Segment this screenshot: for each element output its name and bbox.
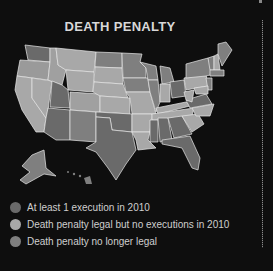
state-kansas	[100, 96, 130, 114]
state-arkansas	[132, 114, 152, 132]
state-iowa	[123, 78, 150, 92]
state-north-dakota	[95, 52, 122, 68]
state-washington	[25, 45, 50, 62]
state-west-virginia	[184, 90, 194, 102]
abolished-swatch-icon	[10, 236, 21, 247]
legend-label: Death penalty legal but no executions in…	[27, 219, 229, 230]
state-maine	[218, 42, 232, 66]
top-marker	[259, 0, 262, 3]
legend-item-executed: At least 1 execution in 2010	[10, 199, 229, 216]
state-new-mexico	[70, 110, 96, 142]
legend-item-abolished: Death penalty no longer legal	[10, 233, 229, 250]
us-map	[0, 40, 240, 190]
divider-line	[262, 20, 263, 248]
state-michigan	[160, 66, 174, 84]
state-south-dakota	[94, 67, 123, 84]
state-alaska	[20, 150, 56, 184]
map-title: DEATH PENALTY	[0, 19, 240, 34]
state-colorado	[70, 92, 100, 112]
executed-swatch-icon	[10, 202, 21, 213]
state-minnesota	[122, 53, 146, 78]
state-arizona	[44, 108, 70, 140]
state-utah	[50, 81, 70, 108]
legend: At least 1 execution in 2010 Death penal…	[10, 199, 229, 250]
state-mississippi	[150, 120, 158, 142]
state-massachusetts	[210, 70, 224, 76]
legal-swatch-icon	[10, 219, 21, 230]
state-wyoming	[66, 70, 94, 92]
state-indiana	[160, 84, 170, 102]
state-hawaii	[67, 171, 92, 184]
legend-label: Death penalty no longer legal	[27, 236, 157, 247]
state-ohio	[170, 80, 186, 98]
legend-label: At least 1 execution in 2010	[27, 202, 150, 213]
state-florida	[162, 136, 200, 170]
legend-item-legal-no-exec: Death penalty legal but no executions in…	[10, 216, 229, 233]
